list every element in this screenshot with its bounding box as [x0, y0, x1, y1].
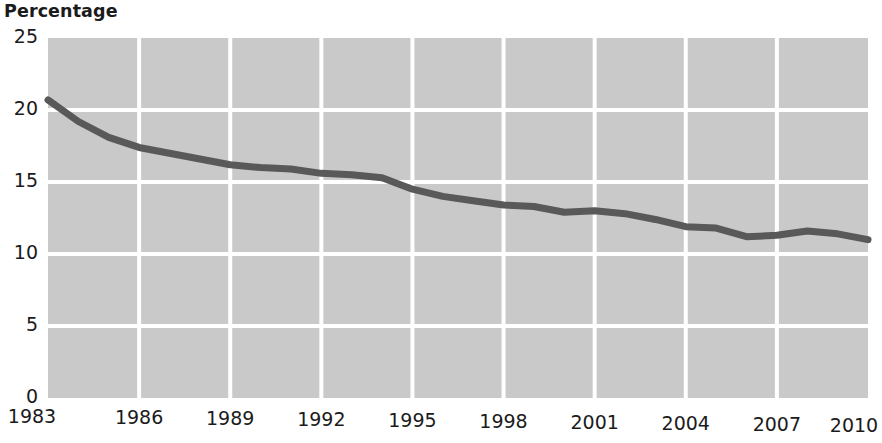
x-tick-label: 1995	[384, 409, 440, 431]
chart-container: Percentage 0510152025 198319861989199219…	[0, 0, 882, 443]
x-tick-label: 2004	[658, 412, 714, 434]
y-tick-label: 10	[0, 241, 38, 263]
plot-background	[48, 38, 868, 398]
y-tick-label: 15	[0, 169, 38, 191]
y-tick-label: 0	[0, 385, 38, 407]
y-tick-label: 20	[0, 97, 38, 119]
x-tick-label: 1989	[202, 407, 258, 429]
y-tick-label: 5	[0, 313, 38, 335]
line-chart-plot	[0, 0, 882, 443]
y-tick-label: 25	[0, 25, 38, 47]
x-tick-label: 2001	[567, 411, 623, 433]
x-tick-label: 2010	[826, 414, 882, 436]
x-tick-label: 2007	[749, 413, 805, 435]
x-tick-label: 1986	[111, 406, 167, 428]
x-tick-label: 1998	[476, 410, 532, 432]
x-tick-label: 1992	[293, 408, 349, 430]
x-tick-label: 1983	[4, 405, 60, 427]
